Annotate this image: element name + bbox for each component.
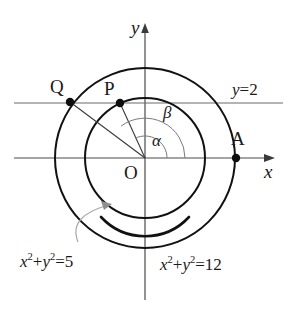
x-axis-label: x bbox=[264, 162, 272, 181]
geometry-figure: y x Q P A O α β y=2 x2+y2=5 x2+y2=12 bbox=[0, 0, 293, 324]
point-A-label: A bbox=[231, 129, 245, 148]
angle-beta-label: β bbox=[163, 104, 171, 121]
outer-eq-y: y bbox=[182, 255, 190, 274]
inner-eq-x: x bbox=[20, 252, 28, 271]
point-A-marker bbox=[232, 154, 240, 162]
figure-canvas bbox=[0, 0, 293, 324]
outer-eq-plus: + bbox=[173, 255, 183, 274]
annotation-arrowhead-inner bbox=[101, 201, 112, 210]
angle-alpha-label: α bbox=[152, 132, 161, 149]
point-Q-label: Q bbox=[50, 77, 64, 96]
line-label-op: = bbox=[240, 80, 250, 99]
origin-label: O bbox=[124, 163, 138, 182]
point-P-marker bbox=[116, 99, 124, 107]
inner-eq-y: y bbox=[42, 252, 50, 271]
point-Q-marker bbox=[66, 98, 74, 106]
outer-eq-rhs: 12 bbox=[205, 255, 222, 274]
point-P-label: P bbox=[104, 79, 115, 98]
inner-eq-plus: + bbox=[33, 252, 43, 271]
outer-eq-x: x bbox=[160, 255, 168, 274]
inner-eq-rhs: 5 bbox=[65, 252, 74, 271]
line-y-equals-2-label: y=2 bbox=[232, 81, 258, 98]
y-axis-arrowhead bbox=[141, 23, 149, 33]
radius-OP bbox=[120, 103, 145, 158]
inner-circle-equation-label: x2+y2=5 bbox=[20, 253, 73, 270]
line-label-var: y bbox=[232, 80, 240, 99]
inner-eq-equals: = bbox=[55, 252, 65, 271]
line-label-value: 2 bbox=[249, 80, 258, 99]
outer-eq-equals: = bbox=[195, 255, 205, 274]
outer-circle-equation-label: x2+y2=12 bbox=[160, 256, 222, 273]
y-axis-label: y bbox=[131, 18, 139, 37]
